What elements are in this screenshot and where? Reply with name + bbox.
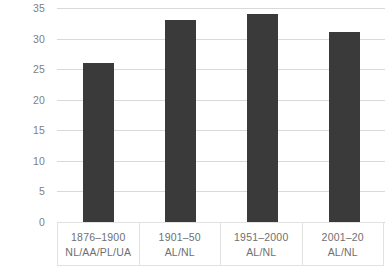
y-axis-tick-label: 0 bbox=[39, 216, 45, 228]
bar-slot bbox=[221, 8, 303, 222]
x-axis-category-cell: 1876–1900NL/AA/PL/UA bbox=[58, 223, 140, 265]
x-axis-period-label: 1901–50 bbox=[159, 231, 201, 243]
y-axis-tick-label: 10 bbox=[33, 155, 45, 167]
x-axis-category-cell: 2001–20AL/NL bbox=[303, 223, 384, 265]
y-axis-tick-label: 30 bbox=[33, 33, 45, 45]
bar-1901–50 bbox=[165, 20, 196, 222]
bar-2001–20 bbox=[329, 32, 360, 222]
x-axis-period-label: 1951–2000 bbox=[234, 231, 288, 243]
x-axis-period-label: 1876–1900 bbox=[71, 231, 125, 243]
bar-slot bbox=[303, 8, 385, 222]
bar-1876–1900 bbox=[83, 63, 114, 222]
x-axis-league-label: NL/AA/PL/UA bbox=[65, 246, 131, 258]
bar-1951–2000 bbox=[247, 14, 278, 222]
y-axis-tick-label: 5 bbox=[39, 185, 45, 197]
x-axis-league-label: AL/NL bbox=[165, 246, 195, 258]
y-axis-tick-label: 25 bbox=[33, 63, 45, 75]
y-axis: 05101520253035 bbox=[0, 0, 52, 222]
y-axis-tick-label: 15 bbox=[33, 124, 45, 136]
y-axis-tick-label: 35 bbox=[33, 2, 45, 14]
x-axis-category-cell: 1901–50AL/NL bbox=[140, 223, 222, 265]
x-axis-period-label: 2001–20 bbox=[322, 231, 364, 243]
y-axis-tick-label: 20 bbox=[33, 94, 45, 106]
plot-area bbox=[57, 8, 385, 222]
x-axis-league-label: AL/NL bbox=[246, 246, 276, 258]
x-axis-label-table: 1876–1900NL/AA/PL/UA1901–50AL/NL1951–200… bbox=[57, 222, 384, 266]
bar-series bbox=[57, 8, 385, 222]
bar-slot bbox=[57, 8, 139, 222]
bar-slot bbox=[139, 8, 221, 222]
x-axis-league-label: AL/NL bbox=[328, 246, 358, 258]
bar-chart: 05101520253035 1876–1900NL/AA/PL/UA1901–… bbox=[0, 0, 391, 272]
x-axis-category-cell: 1951–2000AL/NL bbox=[221, 223, 303, 265]
